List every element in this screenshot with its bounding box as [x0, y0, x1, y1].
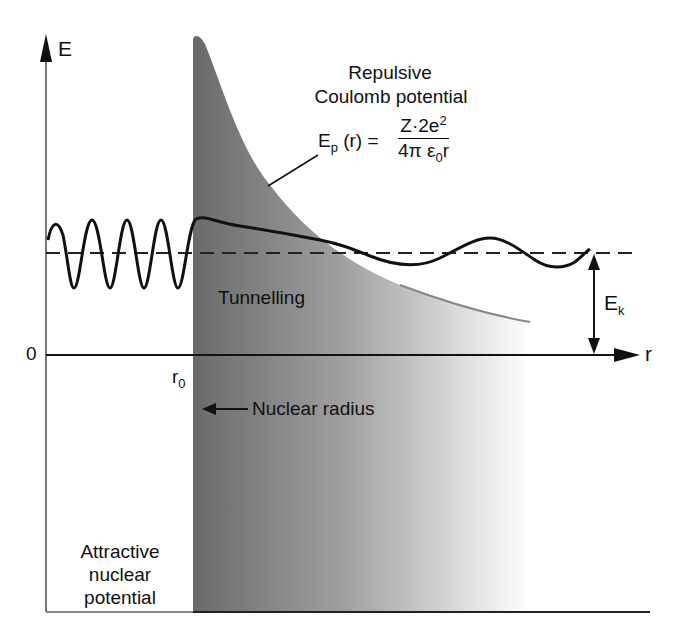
- formula-denominator: 4π ε0r: [398, 139, 449, 165]
- formula-leader-line: [268, 155, 318, 186]
- r-axis-label: r: [645, 343, 652, 365]
- repulsive-title-line1: Repulsive: [315, 62, 465, 84]
- origin-label: 0: [26, 343, 37, 365]
- r0-sub: 0: [178, 376, 185, 391]
- r0-label: r0: [172, 366, 186, 395]
- repulsive-title-line2: Coulomb potential: [300, 86, 482, 108]
- coulomb-barrier-region: [193, 36, 530, 612]
- formula-numerator: Z·2e2: [398, 113, 449, 139]
- formula-fraction: Z·2e2 4π ε0r: [398, 113, 449, 165]
- attractive-label-line1: Attractive: [60, 541, 180, 563]
- ek-label: Ek: [604, 292, 625, 322]
- energy-axis-label: E: [58, 38, 72, 60]
- nuclear-radius-label: Nuclear radius: [252, 398, 375, 420]
- ek-arrow-up-icon: [588, 254, 600, 270]
- formula-lhs: Ep (r) =: [318, 130, 379, 159]
- tunnelling-label: Tunnelling: [218, 287, 305, 309]
- energy-axis-arrow-icon: [40, 34, 52, 62]
- attractive-label-line2: nuclear: [60, 564, 180, 586]
- attractive-label-line3: potential: [60, 587, 180, 609]
